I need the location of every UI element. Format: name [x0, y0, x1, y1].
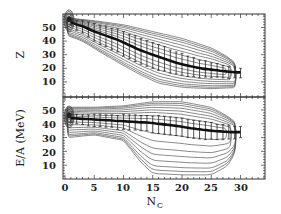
- top-ytick-10: 10: [42, 76, 56, 87]
- x-axis-label-subscript: C: [157, 201, 163, 210]
- top-contours: [64, 10, 236, 89]
- bottom-y-axis-label: E/A (MeV): [14, 109, 27, 166]
- bottom-contours: [64, 102, 236, 175]
- top-y-axis-label: Z: [14, 51, 27, 59]
- chart-figure: 50 40 30 20 10 Z 50 40 30 20 10 E/A (MeV…: [0, 0, 281, 214]
- xtick-25: 25: [204, 182, 218, 193]
- xtick-15: 15: [146, 182, 160, 193]
- top-panel-z-vs-nc: 50 40 30 20 10 Z: [14, 10, 265, 97]
- bottom-panel-ea-vs-nc: 50 40 30 20 10 E/A (MeV) 0 5 10 15 20 25…: [14, 97, 265, 210]
- top-y-tick-labels: 50 40 30 20 10: [42, 22, 56, 87]
- xtick-0: 0: [62, 182, 69, 193]
- x-axis-label-main: N: [146, 195, 156, 208]
- top-ytick-40: 40: [42, 35, 56, 46]
- bottom-ytick-30: 30: [42, 133, 56, 144]
- xtick-10: 10: [116, 182, 130, 193]
- xtick-5: 5: [91, 182, 98, 193]
- bottom-ytick-50: 50: [42, 105, 56, 116]
- top-ytick-50: 50: [42, 22, 56, 33]
- bottom-y-tick-labels: 50 40 30 20 10: [42, 105, 56, 171]
- bottom-ytick-40: 40: [42, 119, 56, 130]
- xtick-30: 30: [234, 182, 248, 193]
- x-tick-labels: 0 5 10 15 20 25 30: [62, 182, 248, 193]
- bottom-ytick-20: 20: [42, 147, 56, 158]
- top-ytick-30: 30: [42, 49, 56, 60]
- xtick-20: 20: [175, 182, 189, 193]
- top-ytick-20: 20: [42, 62, 56, 73]
- bottom-ytick-10: 10: [42, 160, 56, 171]
